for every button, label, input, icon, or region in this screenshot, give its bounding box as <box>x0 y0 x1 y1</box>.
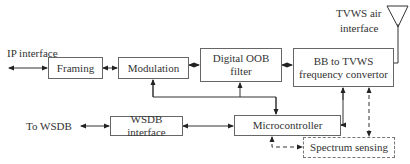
framing-block: Framing <box>48 57 103 79</box>
control-bus-line <box>153 80 276 114</box>
bb-label-line1: BB to TVWS <box>314 55 374 68</box>
bb-to-tvws-converter-block: BB to TVWS frequency convertor <box>293 48 394 87</box>
antenna-feed-line <box>394 24 398 63</box>
spectrum-sensing-block: Spectrum sensing <box>303 137 395 158</box>
wsdb-interface-block: WSDB interface <box>110 116 183 136</box>
microcontroller-label: Microcontroller <box>253 119 323 132</box>
micro-spectrum-dashed-arrow <box>272 137 302 147</box>
oob-label-line1: Digital OOB <box>213 52 270 65</box>
bb-label-line2: frequency convertor <box>299 68 388 81</box>
modulation-label: Modulation <box>128 62 179 75</box>
spectrum-sensing-label: Spectrum sensing <box>310 141 388 154</box>
wsdb-interface-label: WSDB interface <box>111 113 182 139</box>
framing-label: Framing <box>57 62 94 75</box>
microcontroller-block: Microcontroller <box>234 115 341 136</box>
oob-label-line2: filter <box>230 65 251 78</box>
tvws-air-label-line2: interface <box>340 22 378 35</box>
antenna-icon <box>387 6 408 27</box>
digital-oob-filter-block: Digital OOB filter <box>200 48 282 82</box>
tvws-air-label-line1: TVWS air <box>336 7 382 20</box>
to-wsdb-label: To WSDB <box>26 120 72 133</box>
modulation-block: Modulation <box>118 57 189 79</box>
